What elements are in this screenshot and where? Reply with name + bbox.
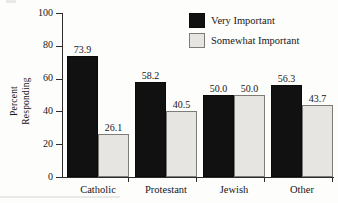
y-tick-label: 40 bbox=[43, 104, 53, 118]
y-tick: 0 bbox=[56, 177, 62, 178]
bar: 40.5 bbox=[166, 111, 197, 177]
x-axis-line bbox=[62, 177, 334, 178]
bar: 56.3 bbox=[271, 85, 302, 177]
x-tick bbox=[332, 177, 333, 182]
y-axis-title-line-2: Responding bbox=[21, 58, 33, 144]
bar-chart: Percent Responding 020406080100 73.926.1… bbox=[0, 0, 338, 203]
y-axis-title: Percent Responding bbox=[9, 58, 39, 144]
y-tick: 60 bbox=[56, 79, 62, 80]
y-tick-label: 20 bbox=[43, 137, 53, 151]
bar: 26.1 bbox=[98, 134, 129, 177]
legend-swatch bbox=[189, 13, 205, 28]
y-axis-title-line-1: Percent bbox=[9, 58, 21, 144]
bar-value-label: 58.2 bbox=[142, 70, 160, 82]
bar: 50.0 bbox=[203, 95, 234, 177]
bar-value-label: 43.7 bbox=[309, 93, 327, 105]
scan-artifact bbox=[6, 0, 16, 3]
scan-artifact bbox=[0, 196, 120, 198]
category-label: Jewish bbox=[220, 183, 249, 196]
category-label: Protestant bbox=[145, 183, 187, 196]
category-label: Other bbox=[290, 183, 314, 196]
bar: 58.2 bbox=[135, 82, 166, 177]
legend-item: Very Important bbox=[189, 10, 299, 30]
bar-value-label: 50.0 bbox=[241, 83, 259, 95]
category-label: Catholic bbox=[80, 183, 116, 196]
bar-value-label: 40.5 bbox=[173, 99, 191, 111]
y-tick: 20 bbox=[56, 144, 62, 145]
x-tick bbox=[196, 177, 197, 182]
legend: Very ImportantSomewhat Important bbox=[189, 10, 299, 50]
y-tick-label: 80 bbox=[43, 38, 53, 52]
y-tick-label: 60 bbox=[43, 71, 53, 85]
legend-label: Very Important bbox=[211, 14, 275, 27]
y-tick-label: 0 bbox=[48, 170, 53, 184]
y-tick: 80 bbox=[56, 46, 62, 47]
legend-label: Somewhat Important bbox=[211, 34, 299, 47]
bar: 50.0 bbox=[234, 95, 265, 177]
y-axis-line bbox=[62, 13, 63, 178]
x-tick bbox=[128, 177, 129, 182]
bar-value-label: 26.1 bbox=[105, 122, 123, 134]
bar: 43.7 bbox=[302, 105, 333, 177]
bar: 73.9 bbox=[67, 56, 98, 177]
y-tick: 100 bbox=[56, 13, 62, 14]
y-tick: 40 bbox=[56, 111, 62, 112]
y-tick-label: 100 bbox=[38, 6, 53, 20]
bar-value-label: 50.0 bbox=[210, 83, 228, 95]
bar-value-label: 73.9 bbox=[74, 44, 92, 56]
legend-swatch bbox=[189, 33, 205, 48]
legend-item: Somewhat Important bbox=[189, 30, 299, 50]
x-tick bbox=[264, 177, 265, 182]
bar-value-label: 56.3 bbox=[278, 73, 296, 85]
